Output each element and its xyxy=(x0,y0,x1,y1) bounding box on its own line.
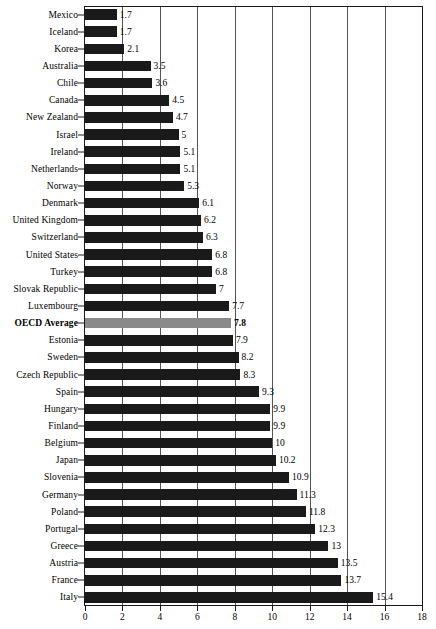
category-label: Belgium xyxy=(45,438,78,448)
y-axis-tick xyxy=(78,323,84,324)
value-label: 5.1 xyxy=(183,147,195,157)
category-label: Australia xyxy=(42,61,78,71)
y-axis-tick xyxy=(78,151,84,152)
bar-row: Germany11.3 xyxy=(0,486,436,503)
value-label: 9.9 xyxy=(273,404,285,414)
y-axis-tick xyxy=(78,357,84,358)
y-axis-tick xyxy=(78,443,84,444)
bar xyxy=(85,404,270,415)
value-label: 7.9 xyxy=(236,335,248,345)
bar-row: Iceland1.7 xyxy=(0,23,436,40)
bar xyxy=(85,44,124,55)
category-label: Denmark xyxy=(42,198,78,208)
bar-row: Poland11.8 xyxy=(0,503,436,520)
value-label: 9.3 xyxy=(262,387,274,397)
bar xyxy=(85,455,276,466)
value-label: 5.1 xyxy=(183,164,195,174)
x-axis-tick xyxy=(197,606,198,611)
y-axis-tick xyxy=(78,340,84,341)
value-label: 11.8 xyxy=(309,507,325,517)
y-axis-tick xyxy=(78,100,84,101)
y-axis-tick xyxy=(78,408,84,409)
y-axis-tick xyxy=(78,528,84,529)
category-label: Czech Republic xyxy=(16,370,78,380)
category-label: Germany xyxy=(42,490,78,500)
bar xyxy=(85,575,341,586)
bar xyxy=(85,541,328,552)
bar-row: OECD Average7.8 xyxy=(0,315,436,332)
y-axis-tick xyxy=(78,597,84,598)
bar xyxy=(85,181,184,192)
bar xyxy=(85,215,201,226)
x-axis-tick xyxy=(85,606,86,611)
category-label: Poland xyxy=(51,507,78,517)
value-label: 13.5 xyxy=(341,558,358,568)
bar-row: Norway5.3 xyxy=(0,177,436,194)
bar xyxy=(85,112,173,123)
value-label: 3.6 xyxy=(155,78,167,88)
bar xyxy=(85,249,212,260)
value-label: 7.7 xyxy=(232,301,244,311)
bar-row: Korea2.1 xyxy=(0,40,436,57)
y-axis-tick xyxy=(78,65,84,66)
bar-row: Luxembourg7.7 xyxy=(0,297,436,314)
value-label: 5 xyxy=(182,130,187,140)
x-axis-tick-label: 8 xyxy=(232,612,237,622)
value-label: 10.9 xyxy=(292,472,309,482)
bar-row: Denmark6.1 xyxy=(0,195,436,212)
value-label: 2.1 xyxy=(127,44,139,54)
bar-row: Spain9.3 xyxy=(0,383,436,400)
bar xyxy=(85,95,169,106)
bar xyxy=(85,9,117,20)
x-axis-tick-label: 16 xyxy=(380,612,390,622)
y-axis-tick xyxy=(78,288,84,289)
bar-row: Sweden8.2 xyxy=(0,349,436,366)
value-label: 6.8 xyxy=(215,250,227,260)
bar-row: Australia3.5 xyxy=(0,57,436,74)
bar-row: Slovenia10.9 xyxy=(0,469,436,486)
y-axis-tick xyxy=(78,271,84,272)
category-label: OECD Average xyxy=(14,318,78,328)
bar-row: Netherlands5.1 xyxy=(0,160,436,177)
bar-row: United Kingdom6.2 xyxy=(0,212,436,229)
value-label: 5.3 xyxy=(187,181,199,191)
y-axis-tick xyxy=(78,185,84,186)
bar xyxy=(85,129,179,140)
value-label: 12.3 xyxy=(318,524,335,534)
y-axis-tick xyxy=(78,511,84,512)
value-label: 6.3 xyxy=(206,232,218,242)
bar xyxy=(85,386,259,397)
category-label: Japan xyxy=(56,455,78,465)
x-axis-tick xyxy=(385,606,386,611)
y-axis-tick xyxy=(78,460,84,461)
category-label: Turkey xyxy=(50,267,78,277)
category-label: Slovenia xyxy=(44,472,78,482)
bar xyxy=(85,438,272,449)
x-axis-tick-label: 14 xyxy=(342,612,352,622)
bar-row: Canada4.5 xyxy=(0,92,436,109)
y-axis-tick xyxy=(78,203,84,204)
bar-row: Belgium10 xyxy=(0,435,436,452)
x-axis-tick xyxy=(422,606,423,611)
y-axis-tick xyxy=(78,477,84,478)
bar-row: Estonia7.9 xyxy=(0,332,436,349)
bar-row: Mexico1.7 xyxy=(0,6,436,23)
y-axis-tick xyxy=(78,83,84,84)
value-label: 6.1 xyxy=(202,198,214,208)
x-axis-tick xyxy=(235,606,236,611)
bar xyxy=(85,232,203,243)
category-label: Sweden xyxy=(47,352,78,362)
category-label: Austria xyxy=(49,558,78,568)
y-axis-tick xyxy=(78,545,84,546)
category-label: Mexico xyxy=(48,10,78,20)
x-axis-tick-label: 18 xyxy=(417,612,427,622)
bar-chart: Mexico1.7Iceland1.7Korea2.1Australia3.5C… xyxy=(0,0,436,629)
bar-row: Israel5 xyxy=(0,126,436,143)
value-label: 6.2 xyxy=(204,215,216,225)
value-label: 7.8 xyxy=(234,318,246,328)
bar xyxy=(85,421,270,432)
bar xyxy=(85,198,199,209)
bar xyxy=(85,369,240,380)
value-label: 13 xyxy=(331,541,341,551)
bar xyxy=(85,78,152,89)
